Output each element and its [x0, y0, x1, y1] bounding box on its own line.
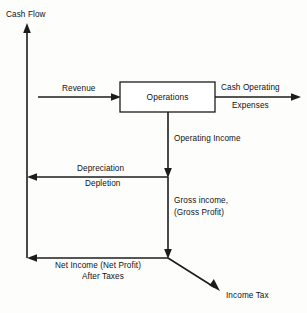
income-tax-arrowhead [210, 279, 221, 291]
cash-flow-diagram: Cash Flow Revenue Operations Cash Operat… [0, 0, 307, 313]
net-income-label-line1: Net Income (Net Profit) [55, 261, 141, 271]
depreciation-label: Depreciation [77, 164, 124, 174]
operations-box-label: Operations [120, 92, 215, 102]
net-income-arrowhead [27, 254, 37, 262]
revenue-arrow [38, 93, 121, 101]
cash-operating-expenses-arrow [215, 93, 301, 101]
cash-flow-axis-label: Cash Flow [6, 10, 46, 20]
gross-income-label-line1: Gross income, [174, 196, 228, 206]
expenses-arrowhead [291, 93, 301, 101]
income-tax-label: Income Tax [226, 291, 269, 301]
gross-income-label-line2: (Gross Profit) [174, 208, 224, 218]
operating-income-label: Operating Income [174, 134, 241, 144]
net-income-label-line2: After Taxes [82, 272, 124, 282]
operating-income-arrow [164, 112, 172, 178]
gross-income-arrow [164, 177, 172, 259]
cash-operating-label: Cash Operating [221, 83, 280, 93]
depreciation-arrowhead [27, 173, 37, 181]
diagram-canvas [0, 0, 307, 313]
axis-up-arrowhead [23, 23, 31, 33]
revenue-label: Revenue [62, 84, 95, 94]
income-tax-arrow [168, 258, 220, 291]
cash-flow-axis [23, 23, 31, 258]
depletion-label: Depletion [85, 179, 121, 189]
expenses-label: Expenses [232, 101, 269, 111]
